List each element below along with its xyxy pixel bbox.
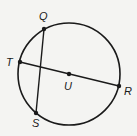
point-t: [18, 60, 22, 64]
label-u: U: [64, 80, 72, 92]
circle-diagram: Q T U R S: [0, 0, 137, 136]
point-u: [67, 72, 71, 76]
label-q: Q: [39, 10, 48, 22]
label-r: R: [124, 85, 132, 97]
chord-qs: [36, 29, 44, 113]
label-t: T: [6, 56, 14, 68]
point-s: [34, 111, 38, 115]
point-q: [42, 27, 46, 31]
point-r: [117, 84, 121, 88]
label-s: S: [32, 117, 40, 129]
